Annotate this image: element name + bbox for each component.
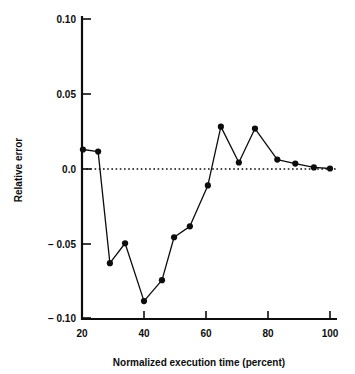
data-point	[141, 298, 147, 304]
y-axis-title: Relative error	[13, 138, 24, 203]
data-point	[159, 277, 165, 283]
data-point	[205, 182, 211, 188]
x-tick-label: 80	[262, 328, 274, 339]
x-tick-label: 100	[322, 328, 339, 339]
data-point	[171, 234, 177, 240]
y-tick-label: − 0.05	[48, 239, 77, 250]
x-tick-label: 40	[138, 328, 150, 339]
data-point	[95, 149, 101, 155]
chart-figure: 0.10 0.05 0.0 − 0.05 − 0.10 20 40 60 80 …	[0, 0, 355, 374]
y-tick-label: 0.10	[57, 14, 77, 25]
data-point	[80, 146, 86, 152]
x-tick-label: 60	[200, 328, 212, 339]
data-point	[236, 159, 242, 165]
x-tick-label: 20	[76, 328, 88, 339]
x-axis-title: Normalized execution time (percent)	[113, 357, 285, 368]
data-point	[218, 124, 224, 130]
data-point	[252, 125, 258, 131]
y-tick-label: − 0.10	[48, 313, 77, 324]
data-point	[311, 164, 317, 170]
data-point	[107, 260, 113, 266]
data-point	[187, 223, 193, 229]
data-point	[292, 160, 298, 166]
relative-error-line-chart: 0.10 0.05 0.0 − 0.05 − 0.10 20 40 60 80 …	[0, 0, 355, 374]
data-point	[327, 165, 333, 171]
y-tick-label: 0.0	[62, 164, 76, 175]
data-point	[274, 156, 280, 162]
y-tick-label: 0.05	[57, 89, 77, 100]
data-point	[122, 240, 128, 246]
